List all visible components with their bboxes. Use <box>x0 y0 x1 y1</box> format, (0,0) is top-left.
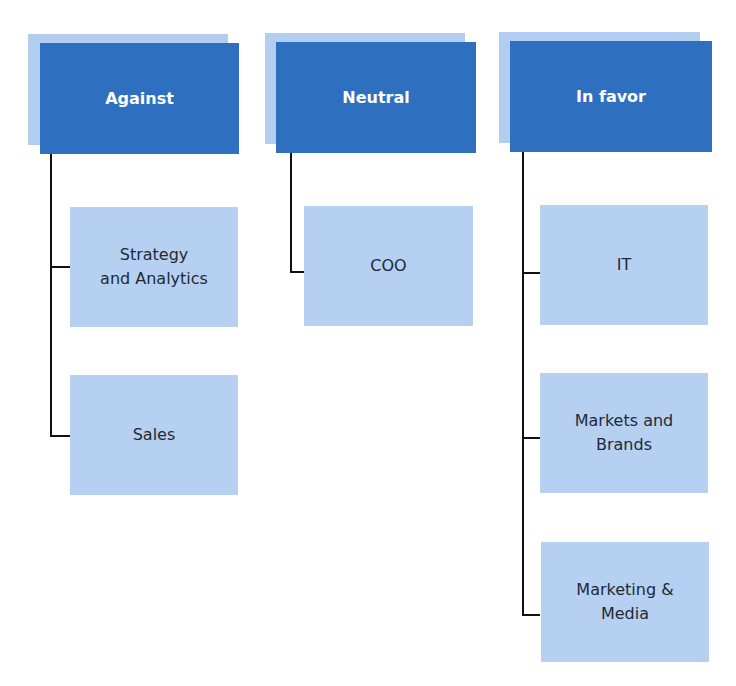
in-favor-connector-it <box>522 272 540 274</box>
neutral-header: Neutral <box>276 42 476 153</box>
node-label: COO <box>370 254 406 278</box>
against-connector-vertical <box>50 154 52 437</box>
neutral-connector-vertical <box>290 153 292 273</box>
node-strategy-and-analytics: Strategy and Analytics <box>70 207 238 327</box>
node-label: Marketing & Media <box>576 578 673 626</box>
neutral-header-label: Neutral <box>342 88 409 107</box>
against-connector-strategy <box>50 266 70 268</box>
against-connector-sales <box>50 435 70 437</box>
in-favor-header: In favor <box>510 41 712 152</box>
node-label: Markets and Brands <box>575 409 674 457</box>
against-header: Against <box>40 43 239 154</box>
neutral-connector-coo <box>290 271 304 273</box>
node-label: Sales <box>133 423 176 447</box>
in-favor-header-label: In favor <box>576 87 646 106</box>
node-label: Strategy and Analytics <box>100 243 208 291</box>
in-favor-connector-marketing <box>522 614 540 616</box>
node-it: IT <box>540 205 708 325</box>
node-sales: Sales <box>70 375 238 495</box>
against-header-label: Against <box>105 89 174 108</box>
node-label: IT <box>617 253 632 277</box>
node-coo: COO <box>304 206 473 326</box>
node-markets-and-brands: Markets and Brands <box>540 373 708 493</box>
in-favor-connector-markets <box>522 437 540 439</box>
node-marketing-and-media: Marketing & Media <box>541 542 709 662</box>
in-favor-connector-vertical <box>522 152 524 616</box>
